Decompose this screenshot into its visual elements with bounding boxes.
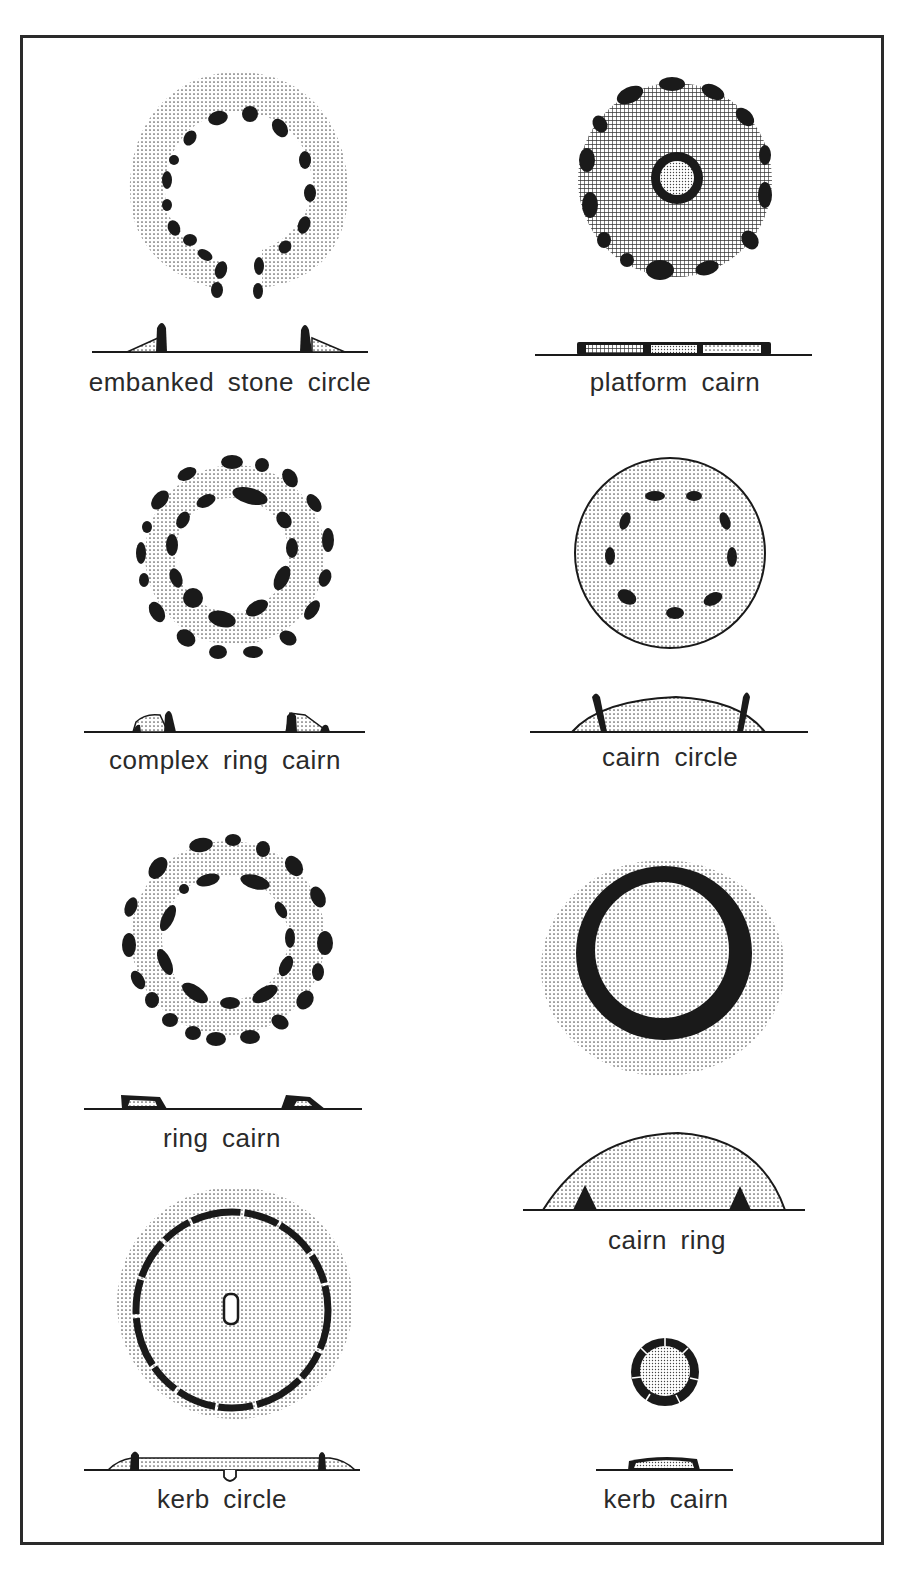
plan-view	[575, 458, 765, 648]
label-cairn-circle: cairn circle	[602, 742, 738, 773]
monument-diagram	[0, 0, 905, 1569]
panel-kerb-circle	[84, 1187, 360, 1481]
section-view	[84, 711, 365, 732]
panel-platform-cairn	[535, 77, 812, 355]
plan-view	[631, 1337, 699, 1406]
label-cairn-ring: cairn ring	[608, 1225, 726, 1256]
section-view	[596, 1457, 733, 1470]
panel-complex-ring-cairn	[84, 455, 365, 732]
plan-view	[578, 77, 772, 280]
section-view	[535, 342, 812, 355]
label-platform-cairn: platform cairn	[590, 367, 761, 398]
panel-cairn-circle	[530, 458, 808, 732]
section-view	[84, 1095, 362, 1109]
section-view	[92, 323, 368, 352]
plan-view	[130, 72, 348, 299]
label-ring-cairn: ring cairn	[163, 1123, 281, 1154]
panel-ring-cairn	[84, 834, 362, 1109]
label-kerb-cairn: kerb cairn	[603, 1484, 728, 1515]
plan-view	[136, 455, 334, 659]
panel-cairn-ring	[523, 860, 805, 1210]
label-embanked-stone-circle: embanked stone circle	[89, 367, 372, 398]
plan-view	[541, 860, 785, 1076]
panel-embanked-stone-circle	[92, 72, 368, 352]
section-view	[84, 1452, 360, 1482]
plan-view	[117, 1187, 353, 1419]
panel-kerb-cairn	[596, 1337, 733, 1470]
section-view	[530, 693, 808, 733]
label-kerb-circle: kerb circle	[157, 1484, 287, 1515]
section-view	[523, 1133, 805, 1210]
plan-view	[122, 834, 333, 1046]
label-complex-ring-cairn: complex ring cairn	[109, 745, 341, 776]
